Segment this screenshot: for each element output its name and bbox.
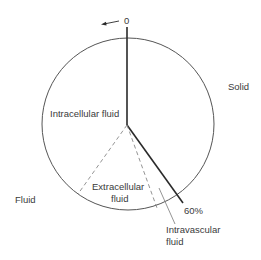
intravascular-fluid-label-line1: Intravascular — [166, 224, 220, 235]
body-water-diagram: 0 Solid Intracellular fluid Extracellula… — [0, 0, 261, 260]
arrow-left-icon — [101, 22, 107, 26]
fluid-label: Fluid — [15, 194, 36, 205]
intracellular-fluid-label: Intracellular fluid — [50, 108, 119, 119]
solid-label: Solid — [228, 81, 249, 92]
extracellular-right-boundary — [127, 125, 157, 208]
sixty-percent-label: 60% — [184, 205, 204, 216]
intravascular-pointer-line — [159, 188, 175, 224]
zero-label: 0 — [124, 15, 129, 26]
intravascular-fluid-label-line2: fluid — [166, 236, 183, 247]
extracellular-fluid-label-line1: Extracellular — [92, 181, 144, 192]
extracellular-fluid-label-line2: fluid — [111, 193, 128, 204]
